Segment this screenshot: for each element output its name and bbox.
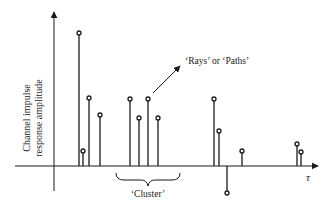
y-axis-label-line-2: response amplitude	[33, 79, 44, 157]
stem-marker	[128, 97, 132, 101]
stem-marker	[137, 116, 141, 120]
rays-arrow	[153, 66, 180, 93]
x-axis-label-tau: τ	[306, 171, 311, 183]
stem-marker	[98, 113, 102, 117]
y-axis-label-line-1: Channel impulse	[21, 84, 32, 152]
stem-marker	[212, 97, 216, 101]
stem-marker	[77, 31, 81, 35]
stem-marker	[146, 97, 150, 101]
stem-marker	[295, 142, 299, 146]
stem-marker	[240, 149, 244, 153]
cluster-label: ‘Cluster’	[131, 189, 165, 199]
rays-label: ‘Rays’ or ‘Paths’	[185, 56, 249, 66]
stem-marker	[217, 129, 221, 133]
stem-marker	[81, 149, 85, 153]
impulse-response-diagram: Channel impulse response amplitude τ ‘Cl…	[0, 0, 334, 207]
stem-marker	[156, 116, 160, 120]
y-axis-label: Channel impulse response amplitude	[21, 79, 44, 157]
stem-marker	[225, 191, 229, 195]
stem-marker	[87, 96, 91, 100]
cluster-brace	[116, 173, 180, 186]
stem-marker	[299, 150, 303, 154]
